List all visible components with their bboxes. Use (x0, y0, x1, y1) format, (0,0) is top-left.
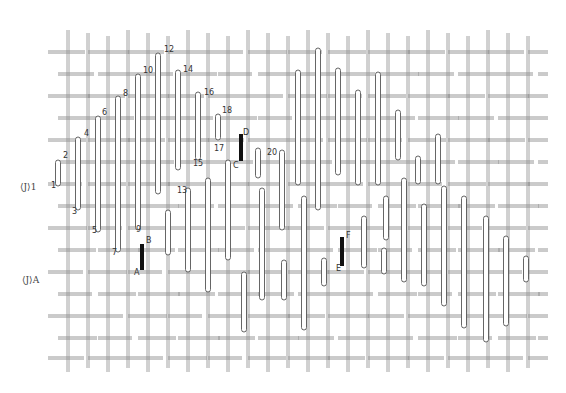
number-label: 20 (267, 148, 277, 157)
letter-label: F (346, 231, 351, 240)
number-label: 9 (136, 225, 141, 234)
number-label: 3 (72, 207, 77, 216)
number-label: 13 (177, 186, 187, 195)
number-label: 12 (164, 45, 174, 54)
side-label: ⟨J⟩A (22, 275, 40, 285)
number-label: 15 (193, 159, 203, 168)
number-label: 7 (112, 248, 117, 257)
number-label: 2 (63, 151, 68, 160)
number-label: 6 (102, 108, 107, 117)
letter-label: A (134, 268, 140, 277)
letter-label: C (233, 161, 239, 170)
number-label: 16 (204, 88, 214, 97)
letter-label: D (243, 128, 249, 137)
letter-label: B (146, 236, 152, 245)
number-label: 1 (51, 181, 56, 190)
number-label: 14 (183, 65, 193, 74)
number-label: 18 (222, 106, 232, 115)
lattice-diagram: 123456789101312141516171820ABCDEF⟨J⟩1⟨J⟩… (0, 0, 566, 393)
number-label: 4 (84, 129, 89, 138)
number-label: 5 (92, 226, 97, 235)
number-label: 17 (214, 144, 224, 153)
letter-label: E (336, 264, 341, 273)
number-label: 8 (123, 89, 128, 98)
side-label: ⟨J⟩1 (20, 182, 36, 192)
number-label: 10 (143, 66, 153, 75)
